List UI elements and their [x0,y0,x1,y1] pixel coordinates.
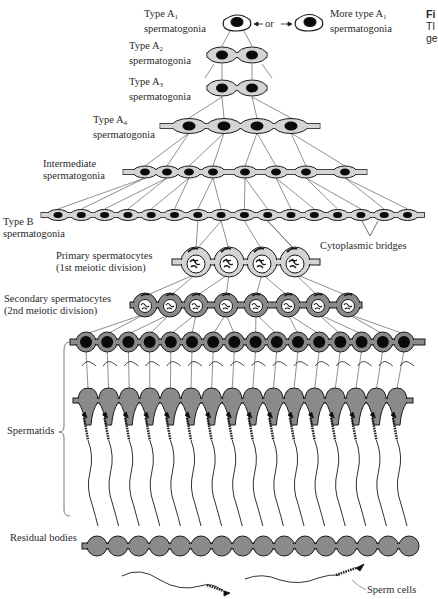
label-secondary-spermatocytes: Secondary spermatocytes (2nd meiotic div… [4,293,111,317]
cell-row [41,210,425,221]
early-spermatids [70,332,425,366]
bridge-pointer [362,221,378,236]
label-or: or [265,18,274,30]
label-intermediate: Intermediate spermatogonia [43,158,105,182]
late-spermatids [73,388,413,526]
label-cytoplasmic-bridges: Cytoplasmic bridges [320,240,407,252]
label-type-a4: Type A4 spermatogonia [93,114,155,141]
label-residual-bodies: Residual bodies [10,532,77,544]
cell-row [207,47,267,63]
type-a1-cell [223,15,251,31]
cell-row [123,166,367,178]
label-type-b: Type B spermatogonia [3,216,65,240]
label-type-a3: Type A3 spermatogonia [129,76,191,103]
cell-row [160,119,320,134]
label-spermatids: Spermatids [7,425,54,437]
primary-spermatocytes [172,247,320,277]
residual-bodies [82,536,419,556]
label-primary-spermatocytes: Primary spermatocytes (1st meiotic divis… [56,250,153,274]
label-more-a1: More type A1 spermatogonia [330,8,392,35]
more-a1-cell [295,15,323,32]
bracket [59,342,70,516]
label-type-a2: Type A2 spermatogonia [129,40,191,67]
label-sperm-cells: Sperm cells [367,584,416,596]
figure-caption: Fi Tl ge [426,8,438,44]
secondary-spermatocytes [130,293,362,317]
label-type-a1: Type A1 spermatogonia [144,8,206,35]
cell-row [207,80,267,96]
